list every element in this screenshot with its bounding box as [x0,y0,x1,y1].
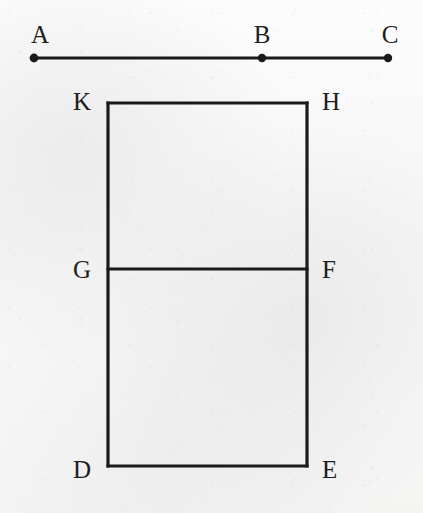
point-b-dot [258,54,266,62]
point-label-h: H [322,88,340,115]
point-label-a: A [31,21,49,48]
point-label-g: G [73,256,91,283]
point-a-dot [30,54,39,63]
geometry-figure: A B C K H E D G F [0,0,423,513]
point-label-d: D [73,456,91,483]
point-label-c: C [382,21,399,48]
rectangle-khed-group: K H E D [73,88,340,483]
divider-gf-group: G F [73,256,336,283]
segment-abc-group: A B C [30,21,399,62]
point-c-dot [384,54,392,62]
figure-canvas: A B C K H E D G F [0,0,423,513]
point-label-f: F [322,256,336,283]
point-label-b: B [254,21,271,48]
point-label-k: K [73,88,91,115]
point-label-e: E [322,456,337,483]
